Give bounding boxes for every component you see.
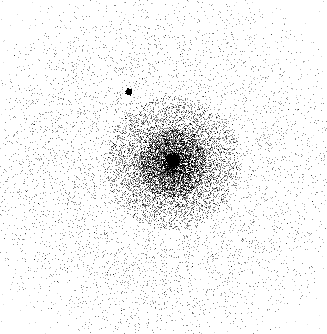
photon-event-scatter-canvas [0, 0, 327, 334]
event-image-viewer [0, 0, 327, 334]
